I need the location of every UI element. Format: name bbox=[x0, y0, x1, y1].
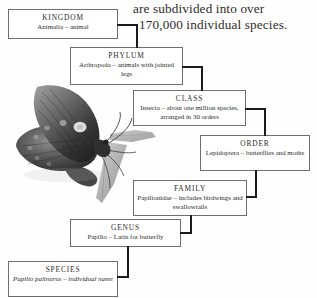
connector-order-family-vertical bbox=[255, 170, 257, 198]
connector-family-genus-horizontal bbox=[180, 232, 191, 234]
connector-order-family-horizontal bbox=[246, 196, 256, 198]
rank-label-species: SPECIES bbox=[9, 265, 117, 275]
rank-label-phylum: PHYLUM bbox=[71, 51, 182, 61]
rank-label-family: FAMILY bbox=[134, 184, 246, 194]
connector-class-order-horizontal bbox=[245, 108, 266, 110]
taxonomy-box-phylum: PHYLUM Arthropoda – animals with jointed… bbox=[70, 47, 183, 85]
rank-description-kingdom: Animalia – animal bbox=[9, 23, 117, 31]
rank-description-genus: Papilio – Latin for butterfly bbox=[71, 233, 180, 241]
taxonomy-diagram-page: are subdivided into over 170,000 individ… bbox=[0, 0, 317, 298]
rank-description-family: Papilionidae – includes birdwings and sw… bbox=[134, 194, 246, 211]
taxonomy-box-family: FAMILY Papilionidae – includes birdwings… bbox=[133, 180, 247, 216]
taxonomy-box-order: ORDER Lepidoptera – butterflies and moth… bbox=[200, 135, 310, 171]
taxonomy-box-species: SPECIES Papilio palinurus – individual n… bbox=[8, 261, 118, 297]
heading-line-1: are subdivided into over bbox=[133, 1, 317, 17]
taxonomy-box-kingdom: KINGDOM Animalia – animal bbox=[8, 9, 118, 39]
rank-description-species: Papilio palinurus – individual name bbox=[9, 275, 117, 283]
rank-label-genus: GENUS bbox=[71, 223, 180, 233]
specimen-shadow bbox=[24, 168, 104, 182]
connector-genus-species-vertical bbox=[127, 246, 129, 278]
rank-label-class: CLASS bbox=[134, 94, 245, 104]
connector-genus-species-horizontal bbox=[117, 276, 128, 278]
rank-description-phylum: Arthropoda – animals with jointed legs bbox=[71, 61, 182, 78]
connector-kingdom-phylum-horizontal bbox=[117, 24, 138, 26]
heading-line-2: 170,000 individual species. bbox=[133, 17, 317, 33]
rank-label-kingdom: KINGDOM bbox=[9, 13, 117, 23]
butterfly-head bbox=[103, 139, 108, 144]
rank-description-class: Insecta – about one million species, arr… bbox=[134, 104, 245, 121]
rank-label-order: ORDER bbox=[201, 139, 309, 149]
connector-phylum-class-vertical bbox=[201, 66, 203, 91]
rank-description-order: Lepidoptera – butterflies and moths bbox=[201, 149, 309, 157]
connector-phylum-class-horizontal bbox=[182, 66, 203, 68]
connector-kingdom-phylum-vertical bbox=[136, 24, 138, 48]
page-heading: are subdivided into over 170,000 individ… bbox=[133, 1, 317, 32]
taxonomy-box-genus: GENUS Papilio – Latin for butterfly bbox=[70, 219, 181, 247]
connector-class-order-vertical bbox=[264, 108, 266, 136]
taxonomy-box-class: CLASS Insecta – about one million specie… bbox=[133, 90, 246, 126]
